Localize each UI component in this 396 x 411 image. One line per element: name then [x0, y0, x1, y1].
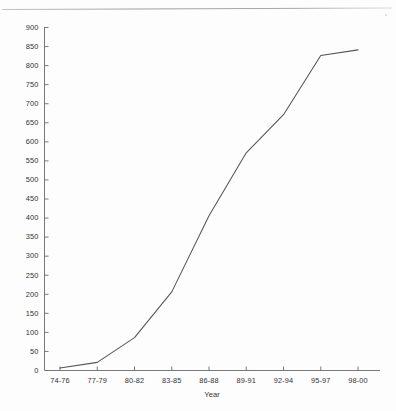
y-tick-label: 550 [26, 156, 39, 165]
x-tick-label: 74-76 [50, 376, 69, 385]
y-tick-label: 700 [26, 99, 39, 108]
y-tick-label: 900 [26, 23, 39, 32]
y-tick-label: 150 [26, 309, 39, 318]
x-tick-label: 98-00 [348, 376, 367, 385]
y-tick-label: 200 [26, 290, 39, 299]
y-tick-label: 400 [26, 213, 39, 222]
y-tick-label: 250 [26, 271, 39, 280]
y-tick-label: 300 [26, 251, 39, 260]
y-tick-label: 100 [26, 328, 39, 337]
x-tick-label: 95-97 [311, 376, 330, 385]
x-axis-ticks [60, 367, 358, 371]
y-tick-label: 800 [26, 61, 39, 70]
y-tick-label: 850 [26, 42, 39, 51]
y-tick-label: 750 [26, 80, 39, 89]
x-tick-label: 86-88 [199, 376, 218, 385]
x-tick-label: 89-91 [237, 376, 256, 385]
x-axis-tick-labels: 74-7677-7980-8283-8586-8889-9192-9495-97… [50, 376, 367, 385]
x-axis-title: Year [204, 390, 220, 399]
y-tick-label: 650 [26, 118, 39, 127]
x-tick-label: 92-94 [274, 376, 293, 385]
x-axis: 74-7677-7980-8283-8586-8889-9192-9495-97… [45, 367, 381, 386]
x-tick-label: 83-85 [162, 376, 181, 385]
y-tick-label: 600 [26, 137, 39, 146]
chart-figure: 0501001502002503003504004505005506006507… [0, 0, 396, 411]
y-tick-label: 50 [30, 347, 38, 356]
y-tick-label: 350 [26, 232, 39, 241]
data-series-line [60, 50, 358, 368]
y-axis-tick-labels: 0501001502002503003504004505005506006507… [26, 23, 39, 375]
y-tick-label: 450 [26, 194, 39, 203]
y-axis: 0501001502002503003504004505005506006507… [26, 23, 49, 375]
x-tick-label: 80-82 [125, 376, 144, 385]
x-tick-label: 77-79 [88, 376, 107, 385]
y-tick-label: 500 [26, 175, 39, 184]
line-chart-plot: 0501001502002503003504004505005506006507… [0, 0, 396, 411]
y-axis-ticks [45, 28, 49, 371]
y-tick-label: 0 [34, 366, 38, 375]
